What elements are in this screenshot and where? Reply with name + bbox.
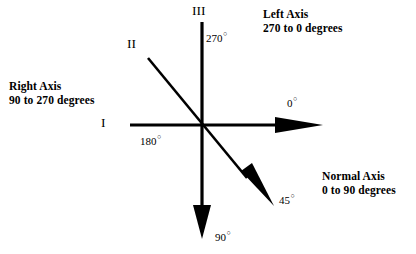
roman-three-label: III xyxy=(192,3,206,19)
roman-one-label: I xyxy=(101,115,106,131)
degree-0-value: 0 xyxy=(287,97,293,109)
degree-90-value: 90 xyxy=(215,231,226,243)
degree-180-value: 180 xyxy=(140,135,157,147)
ray-0-right-arrowhead xyxy=(275,117,323,133)
left-axis-caption: Left Axis 270 to 0 degrees xyxy=(263,8,343,35)
ray-45-diagonal-line xyxy=(148,58,247,178)
normal-axis-caption-line1: Normal Axis xyxy=(322,170,396,184)
degree-90-symbol: ○ xyxy=(227,229,231,237)
ray-45-diagonal-arrowhead xyxy=(241,163,274,206)
degree-45-value: 45 xyxy=(279,194,290,206)
degree-270-label: 270○ xyxy=(206,31,227,45)
ray-90-down-arrowhead xyxy=(193,205,211,239)
right-axis-caption: Right Axis 90 to 270 degrees xyxy=(9,80,95,107)
degree-270-value: 270 xyxy=(206,32,223,44)
degree-180-symbol: ○ xyxy=(157,133,161,141)
degree-90-label: 90○ xyxy=(215,230,230,244)
degree-270-symbol: ○ xyxy=(223,30,227,38)
right-axis-caption-line1: Right Axis xyxy=(9,80,95,94)
diagram-canvas: Right Axis 90 to 270 degrees Left Axis 2… xyxy=(0,0,416,254)
normal-axis-caption: Normal Axis 0 to 90 degrees xyxy=(322,170,396,197)
degree-0-symbol: ○ xyxy=(293,95,297,103)
left-axis-caption-line2: 270 to 0 degrees xyxy=(263,22,343,36)
normal-axis-caption-line2: 0 to 90 degrees xyxy=(322,184,396,198)
right-axis-caption-line2: 90 to 270 degrees xyxy=(9,94,95,108)
degree-45-symbol: ○ xyxy=(291,192,295,200)
degree-45-label: 45○ xyxy=(279,193,294,207)
roman-two-label: II xyxy=(127,36,136,52)
left-axis-caption-line1: Left Axis xyxy=(263,8,343,22)
degree-180-label: 180○ xyxy=(140,134,161,148)
degree-0-label: 0○ xyxy=(287,96,297,110)
